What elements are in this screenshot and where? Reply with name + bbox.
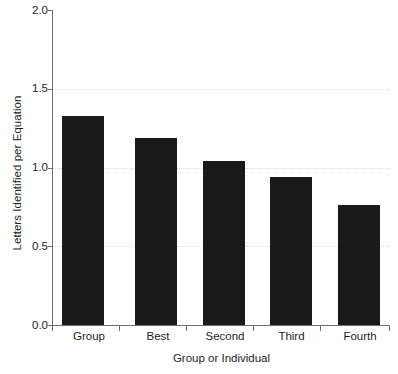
y-tick-label: 1.5 bbox=[18, 83, 48, 95]
y-axis-tick bbox=[48, 10, 53, 11]
bar-third bbox=[270, 177, 312, 325]
x-tick-label-fourth: Fourth bbox=[324, 330, 396, 342]
x-tick-label-best: Best bbox=[123, 330, 193, 342]
bar-best bbox=[135, 138, 177, 325]
y-tick-label: 2.0 bbox=[18, 5, 48, 17]
bar-fourth bbox=[338, 205, 380, 325]
y-tick-label: 0.5 bbox=[18, 241, 48, 253]
x-tick-label-third: Third bbox=[256, 330, 327, 342]
y-tick-label: 1.0 bbox=[18, 162, 48, 174]
plot-area bbox=[53, 10, 390, 325]
bar-group bbox=[62, 116, 104, 326]
y-axis-tick-labels: 2.0 1.5 1.0 0.5 0.0 bbox=[14, 0, 48, 374]
y-axis-tick bbox=[48, 89, 53, 90]
bar-second bbox=[203, 161, 245, 325]
x-axis-title: Group or Individual bbox=[53, 352, 390, 364]
bar-chart: Letters Identified per Equation 2.0 1.5 … bbox=[0, 0, 398, 374]
y-tick-label: 0.0 bbox=[18, 320, 48, 332]
x-axis-tick-labels: Group Best Second Third Fourth bbox=[53, 330, 390, 348]
y-axis-tick bbox=[48, 246, 53, 247]
x-tick-label-second: Second bbox=[189, 330, 261, 342]
y-axis-tick bbox=[48, 168, 53, 169]
x-tick-label-group: Group bbox=[53, 330, 125, 342]
gridline-1_5 bbox=[53, 89, 390, 90]
x-axis-line bbox=[52, 325, 390, 326]
